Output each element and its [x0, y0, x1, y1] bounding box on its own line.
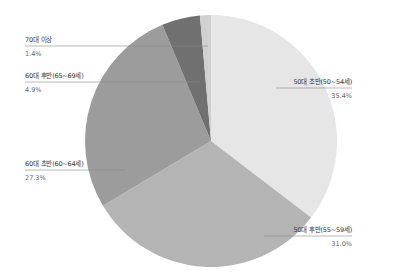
value-50s-late: 31.0% [232, 241, 352, 248]
value-60s-early: 27.3% [25, 175, 46, 182]
value-70s-plus: 1.4% [25, 51, 42, 58]
label-50s-early: 50대 초반(50~54세) [232, 79, 352, 86]
value-50s-early: 35.4% [232, 93, 352, 100]
value-60s-late: 4.9% [25, 87, 42, 94]
label-60s-early: 60대 초반(60~64세) [25, 161, 84, 168]
label-50s-late: 50대 후반(55~59세) [232, 227, 352, 234]
label-60s-late: 60대 후반(65~69세) [25, 73, 84, 80]
pie-chart [0, 0, 416, 278]
label-70s-plus: 70대 이상 [25, 37, 52, 44]
